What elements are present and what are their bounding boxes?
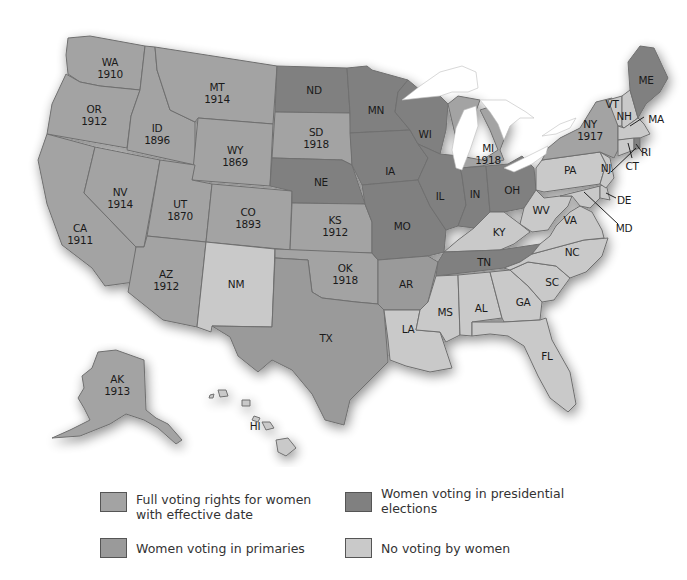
label-la: LA (402, 323, 416, 335)
label-ky: KY (493, 226, 506, 238)
label-wv: WV (533, 204, 551, 216)
label-ms: MS (437, 306, 453, 318)
state-ak[interactable] (52, 350, 182, 444)
label-hi: HI (250, 420, 261, 432)
legend-item-presidential: Women voting in presidentialelections (345, 486, 564, 516)
label-wi: WI (419, 128, 432, 140)
label-vt: VT (606, 98, 620, 110)
label-ar: AR (399, 278, 413, 290)
label-va: VA (563, 214, 577, 226)
label-ia: IA (385, 165, 396, 177)
state-ct[interactable] (618, 138, 634, 156)
label-in: IN (470, 188, 480, 200)
legend-item-primaries: Women voting in primaries (100, 538, 305, 558)
label-oh: OH (504, 184, 520, 196)
label-nh: NH (616, 110, 631, 122)
label-de: DE (617, 194, 631, 206)
label-sc: SC (545, 276, 558, 288)
legend-label-line2: elections (381, 501, 564, 516)
legend-swatch-primaries (100, 538, 127, 558)
label-ri: RI (641, 146, 651, 158)
label-tx: TX (318, 332, 332, 344)
legend-item-full-voting: Full voting rights for womenwith effecti… (100, 492, 311, 522)
us-suffrage-map: WA1910 OR1912 CA1911 ID1896 NV1914 MT191… (0, 0, 687, 470)
legend-label: Women voting in primaries (136, 541, 305, 556)
legend-label: Women voting in presidential (381, 486, 564, 501)
legend-label-line2: with effective date (136, 507, 311, 522)
label-nd: ND (306, 84, 322, 96)
legend-swatch-none (345, 538, 372, 558)
legend-label: No voting by women (381, 541, 510, 556)
label-ga: GA (516, 296, 532, 308)
legend-swatch-presidential (345, 492, 372, 512)
label-me: ME (638, 74, 653, 86)
label-pa: PA (564, 164, 577, 176)
lake-superior (402, 66, 478, 100)
label-tn: TN (476, 256, 491, 268)
label-nc: NC (565, 246, 580, 258)
label-nm: NM (228, 278, 245, 290)
legend-swatch-full (100, 492, 127, 512)
label-mo: MO (394, 220, 411, 232)
label-md: MD (616, 222, 633, 234)
label-il: IL (436, 190, 445, 202)
label-nj: NJ (601, 162, 612, 174)
legend-label: Full voting rights for women (136, 492, 311, 507)
legend: Full voting rights for womenwith effecti… (100, 492, 660, 572)
label-mn: MN (368, 104, 384, 116)
label-ct: CT (625, 160, 639, 172)
label-ne: NE (314, 176, 328, 188)
label-ma: MA (648, 113, 665, 125)
legend-item-no-voting: No voting by women (345, 538, 510, 558)
state-fl[interactable] (472, 318, 576, 412)
label-fl: FL (541, 350, 553, 362)
label-al: AL (475, 302, 488, 314)
